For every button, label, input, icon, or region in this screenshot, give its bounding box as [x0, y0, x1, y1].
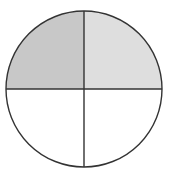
fraction-circle	[0, 0, 169, 176]
quadrant-top-left	[6, 11, 84, 89]
fraction-diagram	[0, 0, 169, 176]
quadrant-top-right	[84, 11, 162, 89]
quadrant-bottom-right	[84, 89, 162, 167]
quadrant-bottom-left	[6, 89, 84, 167]
